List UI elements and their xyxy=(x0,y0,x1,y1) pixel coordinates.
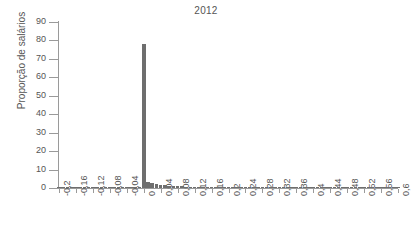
bar xyxy=(261,187,265,188)
y-tick-label: 70 xyxy=(16,54,46,63)
bar xyxy=(371,187,375,188)
x-tick-mark xyxy=(279,189,280,193)
bar xyxy=(269,187,273,188)
bar xyxy=(172,186,176,188)
bar xyxy=(273,187,277,188)
bar xyxy=(150,183,154,188)
x-tick-mark xyxy=(313,189,314,193)
bar xyxy=(299,187,303,188)
bar xyxy=(87,187,91,188)
y-tick-mark xyxy=(49,59,58,60)
y-tick-mark xyxy=(49,114,58,115)
bar xyxy=(121,187,125,188)
bar xyxy=(100,187,104,188)
bar xyxy=(354,187,358,188)
x-tick-mark xyxy=(178,189,179,193)
bar xyxy=(146,182,150,188)
bar xyxy=(256,187,260,188)
bar xyxy=(307,187,311,188)
x-tick-mark xyxy=(127,189,128,193)
bar xyxy=(248,187,252,188)
bar xyxy=(142,44,146,188)
x-tick-mark xyxy=(262,189,263,193)
bar xyxy=(104,187,108,188)
bar xyxy=(328,187,332,188)
y-tick-label: 40 xyxy=(16,109,46,118)
bar xyxy=(367,187,371,188)
bar xyxy=(83,187,87,188)
bar xyxy=(396,187,400,188)
y-tick-mark xyxy=(49,96,58,97)
bar xyxy=(350,187,354,188)
bar xyxy=(189,187,193,188)
bar xyxy=(320,187,324,188)
x-tick-mark xyxy=(296,189,297,193)
bar xyxy=(133,187,137,188)
y-tick-label: 50 xyxy=(16,91,46,100)
y-tick-mark xyxy=(49,22,58,23)
bar xyxy=(337,187,341,188)
bar xyxy=(383,187,387,188)
bar xyxy=(117,187,121,188)
bar xyxy=(74,187,78,188)
bar xyxy=(197,187,201,188)
bar xyxy=(345,187,349,188)
bar xyxy=(176,186,180,188)
bar xyxy=(201,187,205,188)
bar xyxy=(333,187,337,188)
x-tick-mark xyxy=(93,189,94,193)
bar xyxy=(78,187,82,188)
bar xyxy=(341,187,345,188)
bar xyxy=(112,187,116,188)
bar xyxy=(282,187,286,188)
bar xyxy=(180,186,184,188)
bar xyxy=(311,187,315,188)
x-tick-mark xyxy=(245,189,246,193)
y-tick-mark xyxy=(49,133,58,134)
bar xyxy=(392,187,396,188)
bar xyxy=(358,187,362,188)
y-tick-mark xyxy=(49,40,58,41)
y-tick-label: 80 xyxy=(16,35,46,44)
bar xyxy=(231,187,235,188)
x-tick-label: 0,6 xyxy=(402,183,411,196)
bar xyxy=(125,187,129,188)
bar xyxy=(222,187,226,188)
bar xyxy=(91,187,95,188)
bar xyxy=(324,187,328,188)
x-tick-mark xyxy=(398,189,399,193)
bar xyxy=(95,187,99,188)
y-tick-mark xyxy=(49,188,58,189)
bar xyxy=(252,187,256,188)
x-tick-mark xyxy=(59,189,60,193)
bar xyxy=(57,187,61,188)
chart-figure: 2012 Proporção de salários 0102030405060… xyxy=(0,0,412,228)
bar xyxy=(210,187,214,188)
x-tick-mark xyxy=(330,189,331,193)
y-tick-label: 90 xyxy=(16,17,46,26)
x-tick-mark xyxy=(381,189,382,193)
bar xyxy=(129,187,133,188)
x-tick-mark xyxy=(195,189,196,193)
y-tick-label: 30 xyxy=(16,128,46,137)
bar xyxy=(227,187,231,188)
y-tick-mark xyxy=(49,77,58,78)
x-tick-mark xyxy=(161,189,162,193)
bar xyxy=(316,187,320,188)
chart-title: 2012 xyxy=(0,5,412,16)
y-tick-label: 60 xyxy=(16,72,46,81)
bar-series xyxy=(59,22,398,188)
bar xyxy=(388,187,392,188)
bar xyxy=(108,187,112,188)
y-tick-label: 0 xyxy=(16,183,46,192)
bar xyxy=(159,185,163,188)
x-tick-mark xyxy=(364,189,365,193)
y-tick-mark xyxy=(49,151,58,152)
x-tick-mark xyxy=(144,189,145,193)
bar xyxy=(265,187,269,188)
bar xyxy=(167,186,171,188)
x-tick-mark xyxy=(347,189,348,193)
y-tick-mark xyxy=(49,170,58,171)
bar xyxy=(184,187,188,188)
bar xyxy=(379,187,383,188)
